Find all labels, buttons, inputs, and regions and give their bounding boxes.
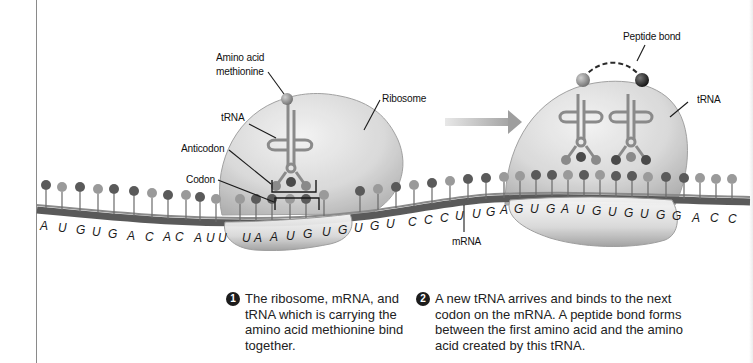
step-2-caption: 2 A new tRNA arrives and binds to the ne… — [416, 291, 716, 355]
ribosome-large-subunit-right — [505, 81, 688, 205]
label-trna-left: tRNA — [221, 110, 244, 124]
svg-text:U: U — [530, 202, 539, 216]
svg-text:U: U — [608, 205, 617, 219]
ribosome-large-subunit-left — [219, 94, 402, 215]
svg-text:G: G — [624, 206, 633, 220]
svg-text:U: U — [92, 225, 101, 239]
label-mrna: mRNA — [452, 234, 481, 248]
svg-text:G: G — [592, 204, 601, 218]
svg-text:A: A — [560, 202, 569, 216]
svg-text:A: A — [193, 231, 202, 245]
svg-text:C: C — [408, 215, 417, 229]
svg-text:A: A — [691, 211, 700, 225]
svg-text:G: G — [338, 223, 347, 237]
svg-text:A: A — [126, 229, 135, 243]
svg-text:U: U — [58, 221, 67, 235]
label-peptide-bond: Peptide bond — [623, 29, 681, 43]
step-1-badge: 1 — [226, 292, 240, 306]
label-codon: Codon — [186, 172, 215, 186]
label-amino-acid-line2: methionine — [216, 64, 264, 78]
svg-text:C: C — [145, 230, 154, 244]
step-1-text: The ribosome, mRNA, and tRNA which is ca… — [245, 291, 405, 353]
svg-text:A: A — [253, 231, 262, 245]
svg-text:A: A — [162, 230, 171, 244]
svg-text:G: G — [514, 202, 523, 216]
amino-acid-1 — [576, 73, 590, 87]
label-amino-acid: Amino acid methionine — [216, 50, 264, 78]
svg-text:U: U — [576, 203, 585, 217]
svg-text:U: U — [386, 217, 395, 231]
svg-text:C: C — [710, 211, 719, 225]
label-anticodon: Anticodon — [181, 141, 224, 155]
svg-text:U: U — [242, 231, 251, 245]
svg-text:C: C — [440, 211, 449, 225]
svg-text:G: G — [108, 227, 117, 241]
svg-text:G: G — [303, 227, 312, 241]
methionine-amino-acid — [281, 93, 293, 105]
step-1-caption: 1 The ribosome, mRNA, and tRNA which is … — [226, 291, 406, 355]
svg-text:C: C — [424, 213, 433, 227]
svg-text:U: U — [218, 231, 227, 245]
svg-text:U: U — [322, 225, 331, 239]
svg-text:A: A — [39, 219, 48, 233]
label-trna-right: tRNA — [697, 92, 720, 106]
svg-text:U: U — [354, 221, 363, 235]
svg-text:U: U — [472, 207, 481, 221]
svg-text:U: U — [640, 207, 649, 221]
svg-text:G: G — [76, 223, 85, 237]
svg-text:G: G — [672, 209, 681, 223]
svg-text:G: G — [486, 205, 495, 219]
amino-acid-2 — [635, 73, 649, 87]
svg-text:A: A — [499, 203, 508, 217]
svg-text:C: C — [175, 230, 184, 244]
step-2-text: A new tRNA arrives and binds to the next… — [435, 291, 697, 353]
svg-text:G: G — [370, 219, 379, 233]
svg-text:C: C — [728, 212, 737, 226]
label-amino-acid-line1: Amino acid — [216, 50, 264, 64]
peptide-bond-dashed-line — [583, 63, 640, 78]
step-2-badge: 2 — [416, 292, 430, 306]
svg-text:U: U — [455, 209, 464, 223]
label-ribosome: Ribosome — [382, 91, 426, 105]
svg-text:U: U — [286, 229, 295, 243]
svg-text:U: U — [206, 231, 215, 245]
svg-text:A: A — [269, 230, 278, 244]
svg-text:G: G — [656, 208, 665, 222]
svg-text:G: G — [546, 202, 555, 216]
step-arrow-icon — [445, 110, 522, 134]
